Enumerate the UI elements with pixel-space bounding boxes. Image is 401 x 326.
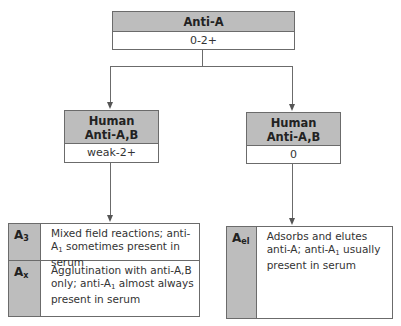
- label-main: A: [14, 265, 23, 279]
- connector-horizontal: [110, 66, 293, 67]
- human-anti-ab-left-header: Human Anti-A,B: [65, 111, 158, 144]
- phenotype-box-left: A3 Mixed field reactions; anti-A1 someti…: [8, 223, 200, 317]
- header-line-1: Human: [247, 116, 340, 130]
- phenotype-box-right: Ael Adsorbs and elutes anti-A; anti-A1 u…: [226, 226, 393, 319]
- human-anti-ab-right-header: Human Anti-A,B: [247, 113, 340, 146]
- phenotype-row-a3: A3 Mixed field reactions; anti-A1 someti…: [9, 224, 199, 261]
- label-sub: x: [23, 271, 28, 280]
- human-anti-ab-left-value: weak-2+: [65, 144, 158, 162]
- anti-a-header: Anti-A: [113, 12, 294, 32]
- arrow-down-icon: [107, 215, 113, 222]
- human-anti-ab-right-box: Human Anti-A,B 0: [246, 112, 341, 164]
- anti-a-box: Anti-A 0-2+: [112, 11, 295, 50]
- phenotype-row-ax: Ax Agglutination with anti-A,B only; ant…: [9, 261, 199, 316]
- arrow-down-icon: [107, 102, 113, 109]
- phenotype-row-ael: Ael Adsorbs and elutes anti-A; anti-A1 u…: [227, 227, 392, 318]
- connector-right-lower: [292, 163, 293, 219]
- header-line-1: Human: [65, 114, 158, 128]
- header-line-2: Anti-A,B: [247, 130, 340, 144]
- phenotype-label: Ax: [9, 261, 41, 316]
- anti-a-value: 0-2+: [113, 32, 294, 49]
- connector-right-drop: [292, 66, 293, 106]
- phenotype-label: Ael: [227, 227, 257, 318]
- label-sub: el: [241, 237, 249, 246]
- human-anti-ab-left-box: Human Anti-A,B weak-2+: [64, 110, 159, 163]
- connector-left-lower: [110, 162, 111, 217]
- header-line-2: Anti-A,B: [65, 128, 158, 142]
- human-anti-ab-right-value: 0: [247, 146, 340, 164]
- phenotype-label: A3: [9, 224, 41, 260]
- label-sub: 3: [23, 234, 29, 243]
- label-main: A: [14, 228, 23, 242]
- arrow-down-icon: [289, 218, 295, 225]
- arrow-down-icon: [289, 104, 295, 111]
- connector-top-stem: [202, 49, 203, 67]
- phenotype-description: Adsorbs and elutes anti-A; anti-A1 usual…: [257, 227, 392, 318]
- connector-left-drop: [110, 66, 111, 104]
- phenotype-description: Agglutination with anti-A,B only; anti-A…: [41, 261, 199, 316]
- label-main: A: [232, 231, 241, 245]
- phenotype-description: Mixed field reactions; anti-A1 sometimes…: [41, 224, 199, 260]
